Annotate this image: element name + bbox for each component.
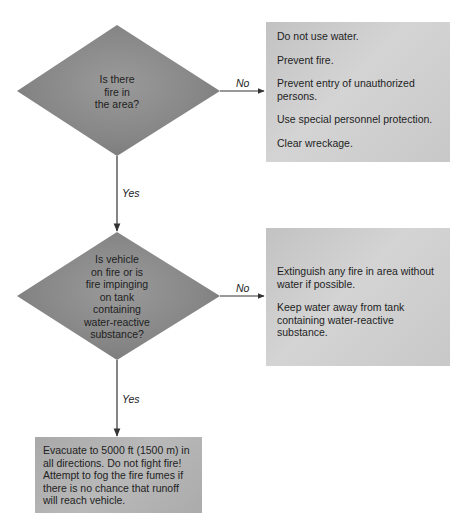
decision-2-line: Is vehicle [62,253,172,266]
action-2-item: Extinguish any fire in area without wate… [277,265,439,290]
decision-1-line: Is there [67,73,167,86]
edge-label-d1-yes: Yes [122,187,140,199]
decision-2-line: fire impinging [62,278,172,291]
decision-1-line: the area? [67,98,167,111]
action-1-item: Prevent entry of unauthorized persons. [277,77,439,102]
decision-2-line: water-reactive [62,316,172,329]
action-1-item: Prevent fire. [277,54,439,67]
decision-2-line: on tank [62,291,172,304]
decision-2-text: Is vehicle on fire or is fire impinging … [62,253,172,341]
action-1-item: Clear wreckage. [277,137,439,150]
decision-2-line: containing [62,303,172,316]
action-1-item: Use special personnel protection. [277,113,439,126]
action-2-item: Keep water away from tank containing wat… [277,301,439,339]
edge-label-d2-no: No [236,282,249,294]
edge-label-d2-yes: Yes [122,393,140,405]
decision-2-line: substance? [62,328,172,341]
action-box-3: Evacuate to 5000 ft (1500 m) in all dire… [35,437,202,513]
decision-2-line: on fire or is [62,266,172,279]
flowchart: Is there fire in the area? Is vehicle on… [0,0,462,520]
action-3-item: Evacuate to 5000 ft (1500 m) in all dire… [43,444,194,507]
action-1-item: Do not use water. [277,30,439,43]
edge-label-d1-no: No [236,77,249,89]
action-box-2: Extinguish any fire in area without wate… [266,228,450,366]
decision-1-line: fire in [67,86,167,99]
decision-1-text: Is there fire in the area? [67,73,167,111]
action-box-1: Do not use water. Prevent fire. Prevent … [266,22,450,162]
